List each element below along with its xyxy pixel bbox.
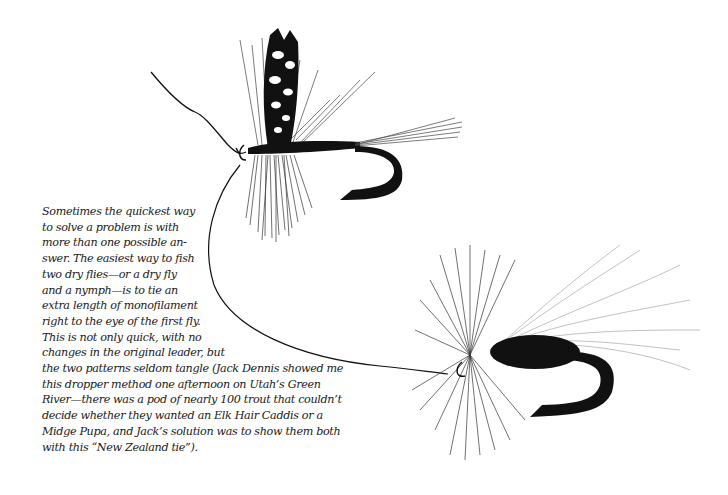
caption-line: two dry flies—or a dry fly [42, 267, 343, 283]
caption-line: decide whether they wanted an Elk Hair C… [42, 408, 343, 424]
caption-line: extra length of monofilament [42, 298, 343, 314]
fly-body [248, 141, 360, 154]
caption-text: Sometimes the quickest way to solve a pr… [42, 204, 343, 455]
caption-line: River—there was a pod of nearly 100 trou… [42, 392, 343, 408]
hook [340, 146, 402, 200]
caption-line: with this “New Zealand tie”). [42, 440, 343, 456]
caption-line: this dropper method one afternoon on Uta… [42, 377, 343, 393]
caption-line: more than one possible an- [42, 235, 343, 251]
caption-line: changes in the original leader, but [42, 345, 343, 361]
caption-line: swer. The easiest way to fish [42, 251, 343, 267]
caption-line: Midge Pupa, and Jack’s solution was to s… [42, 424, 343, 440]
caption-line: right to the eye of the first fly. [42, 314, 343, 330]
bottom-fly [412, 245, 700, 460]
caption-line: Sometimes the quickest way [42, 204, 343, 220]
caption-line: the two patterns seldom tangle (Jack Den… [42, 361, 343, 377]
caption-line: This is not only quick, with no [42, 330, 343, 346]
caption-line: to solve a problem is with [42, 220, 343, 236]
leader-line [151, 72, 246, 153]
caption-line: and a nymph—is to tie an [42, 283, 343, 299]
